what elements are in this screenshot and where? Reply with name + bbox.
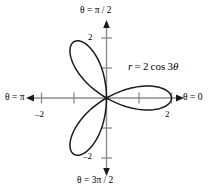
axis-label-theta-pi: θ = π: [5, 93, 24, 103]
polar-rose-figure: θ = π / 2 θ = 3π / 2 θ = π θ = 0 –2 2 2 …: [0, 0, 217, 195]
curve-equation-label: r = 2 cos 3θ: [128, 61, 178, 72]
y-tick-label-pos2: 2: [88, 33, 93, 42]
equation-theta: θ: [173, 60, 178, 72]
x-tick-label-neg2: –2: [35, 110, 44, 119]
axis-label-theta-3pi-over-2: θ = 3π / 2: [77, 176, 113, 186]
y-tick-label-neg2: –2: [83, 152, 92, 161]
y-axis-up-arrow-icon: [103, 20, 110, 28]
axis-label-theta-zero: θ = 0: [183, 93, 202, 103]
x-axis-left-arrow-icon: [26, 95, 34, 102]
x-tick-label-pos2: 2: [165, 110, 170, 119]
equation-function: cos: [151, 60, 166, 72]
axis-label-theta-pi-over-2: θ = π / 2: [80, 6, 112, 16]
